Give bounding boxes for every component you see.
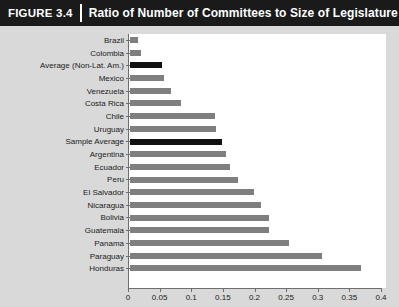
category-label: Honduras xyxy=(0,264,126,273)
bar xyxy=(130,177,238,183)
figure-title: Ratio of Number of Committees to Size of… xyxy=(89,6,398,20)
bar-row: Costa Rica xyxy=(0,97,399,110)
bar xyxy=(130,164,230,170)
bar-cell xyxy=(130,47,399,60)
x-axis-tick xyxy=(160,288,161,292)
figure-title-bar: FIGURE 3.4 Ratio of Number of Committees… xyxy=(0,0,399,26)
bar xyxy=(130,227,269,233)
bar-cell xyxy=(130,161,399,174)
bar-cell xyxy=(130,110,399,123)
category-label: El Salvador xyxy=(0,188,126,197)
bar-cell xyxy=(130,85,399,98)
bar-cell xyxy=(130,97,399,110)
bar-cell xyxy=(130,72,399,85)
bar-rows: BrazilColombiaAverage (Non-Lat. Am.)Mexi… xyxy=(0,34,399,288)
category-label: Venezuela xyxy=(0,87,126,96)
x-axis-tick-label: 0.1 xyxy=(186,293,197,302)
bar xyxy=(130,215,269,221)
bar-row: Chile xyxy=(0,110,399,123)
bar-cell xyxy=(130,186,399,199)
x-axis-tick xyxy=(381,288,382,292)
category-label: Peru xyxy=(0,175,126,184)
bar-cell xyxy=(130,199,399,212)
chart-panel: BrazilColombiaAverage (Non-Lat. Am.)Mexi… xyxy=(0,26,399,307)
category-label: Brazil xyxy=(0,36,126,45)
bar-row: Mexico xyxy=(0,72,399,85)
bar-cell xyxy=(130,34,399,47)
category-label: Panama xyxy=(0,239,126,248)
bar-row: Panama xyxy=(0,237,399,250)
bar-row: Uruguay xyxy=(0,123,399,136)
x-axis-tick-label: 0.2 xyxy=(249,293,260,302)
bar-cell xyxy=(130,262,399,275)
bar-cell xyxy=(130,174,399,187)
bar xyxy=(130,75,164,81)
bar-row: Colombia xyxy=(0,47,399,60)
x-axis-tick-label: 0.35 xyxy=(342,293,358,302)
bar xyxy=(130,265,361,271)
category-label: Uruguay xyxy=(0,125,126,134)
bar-cell xyxy=(130,237,399,250)
x-axis-tick xyxy=(128,288,129,292)
bar xyxy=(130,139,222,145)
category-label: Guatemala xyxy=(0,226,126,235)
bar xyxy=(130,88,171,94)
category-label: Nicaragua xyxy=(0,201,126,210)
category-label: Bolivia xyxy=(0,213,126,222)
x-axis-tick-label: 0.25 xyxy=(278,293,294,302)
x-axis-tick xyxy=(255,288,256,292)
x-axis-tick xyxy=(223,288,224,292)
bar-cell xyxy=(130,250,399,263)
bar-row: Ecuador xyxy=(0,161,399,174)
x-axis-tick-label: 0.05 xyxy=(152,293,168,302)
bar-row: Peru xyxy=(0,174,399,187)
category-label: Average (Non-Lat. Am.) xyxy=(0,61,126,70)
bar-row: El Salvador xyxy=(0,186,399,199)
category-label: Colombia xyxy=(0,49,126,58)
bar-row: Sample Average xyxy=(0,136,399,149)
bar xyxy=(130,126,216,132)
category-label: Chile xyxy=(0,112,126,121)
bar xyxy=(130,37,138,43)
bar-cell xyxy=(130,224,399,237)
bar xyxy=(130,240,289,246)
bar xyxy=(130,62,162,68)
bar xyxy=(130,189,254,195)
bar-row: Paraguay xyxy=(0,250,399,263)
bar-row: Venezuela xyxy=(0,85,399,98)
category-label: Argentina xyxy=(0,150,126,159)
bar-row: Honduras xyxy=(0,262,399,275)
category-label: Paraguay xyxy=(0,252,126,261)
category-label: Costa Rica xyxy=(0,99,126,108)
bar-cell xyxy=(130,136,399,149)
x-axis-tick xyxy=(318,288,319,292)
bar-row: Brazil xyxy=(0,34,399,47)
bar xyxy=(130,50,141,56)
bar-cell xyxy=(130,148,399,161)
x-axis-tick-label: 0 xyxy=(126,293,130,302)
x-axis: 00.050.10.150.20.250.30.350.4 xyxy=(128,288,385,307)
bar xyxy=(130,100,181,106)
bar-row: Average (Non-Lat. Am.) xyxy=(0,59,399,72)
figure-screenshot: FIGURE 3.4 Ratio of Number of Committees… xyxy=(0,0,399,307)
bar-row: Guatemala xyxy=(0,224,399,237)
figure-word: FIGURE xyxy=(8,7,53,19)
bar-cell xyxy=(130,123,399,136)
bar xyxy=(130,113,215,119)
category-label: Ecuador xyxy=(0,163,126,172)
bar-row: Argentina xyxy=(0,148,399,161)
bar-cell xyxy=(130,212,399,225)
bar-cell xyxy=(130,59,399,72)
bar xyxy=(130,253,322,259)
x-axis-tick xyxy=(286,288,287,292)
figure-number: 3.4 xyxy=(56,7,73,19)
bar xyxy=(130,151,226,157)
figure-label: FIGURE 3.4 xyxy=(0,7,73,19)
x-axis-tick-label: 0.3 xyxy=(312,293,323,302)
bar-row: Bolivia xyxy=(0,212,399,225)
x-axis-tick xyxy=(191,288,192,292)
x-axis-tick-label: 0.4 xyxy=(375,293,386,302)
category-label: Mexico xyxy=(0,74,126,83)
title-divider xyxy=(80,4,82,22)
category-label: Sample Average xyxy=(0,137,126,146)
